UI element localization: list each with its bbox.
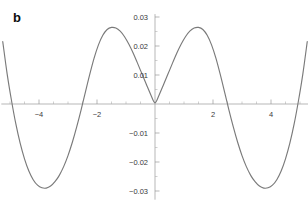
line-chart: −4−224 0.030.020.01−0.01−0.02−0.03 bbox=[0, 0, 308, 208]
y-tick-label: −0.02 bbox=[129, 158, 148, 167]
y-axis bbox=[155, 14, 160, 200]
x-tick-label: −2 bbox=[93, 110, 102, 119]
y-tick-label: 0.02 bbox=[133, 42, 148, 51]
y-tick-label: −0.03 bbox=[129, 187, 148, 196]
x-tick-label: −4 bbox=[35, 110, 44, 119]
figure-panel-b: b −4−224 0.030.020.01−0.01−0.02−0.03 bbox=[0, 0, 308, 208]
x-tick-labels: −4−224 bbox=[35, 110, 273, 119]
x-tick-label: 4 bbox=[269, 110, 273, 119]
y-tick-label: 0.01 bbox=[133, 71, 148, 80]
y-tick-label: 0.03 bbox=[133, 13, 148, 22]
x-tick-label: 2 bbox=[211, 110, 215, 119]
y-tick-label: −0.01 bbox=[129, 129, 148, 138]
